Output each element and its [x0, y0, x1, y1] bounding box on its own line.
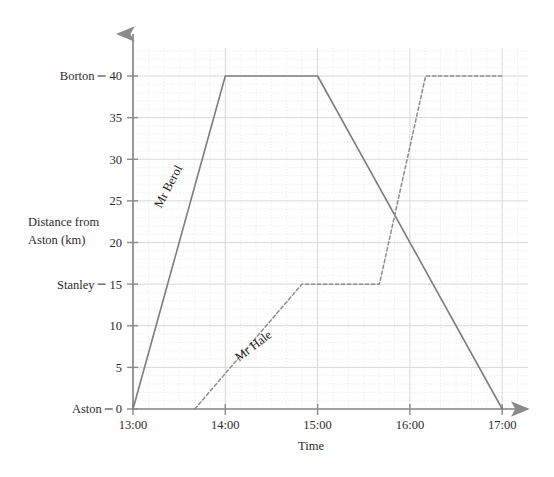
x-tick-label-1500: 15:00	[303, 418, 331, 432]
x-tick-label-1300: 13:00	[119, 418, 147, 432]
y-tick-label-25: 25	[110, 194, 123, 208]
y-place-label-borton: Borton	[60, 69, 95, 83]
distance-time-graph: 0Aston51015Stanley2025303540Borton 13:00…	[0, 0, 554, 477]
y-axis-title: Distance from Aston (km)	[28, 215, 99, 247]
y-tick-label-0: 0	[116, 402, 122, 416]
y-tick-label-40: 40	[110, 69, 123, 83]
y-tick-label-35: 35	[110, 111, 123, 125]
y-tick-label-15: 15	[110, 278, 123, 292]
y-tick-label-10: 10	[110, 319, 123, 333]
axis-lines	[133, 34, 528, 409]
y-tick-label-30: 30	[110, 153, 123, 167]
x-tick-label-1600: 16:00	[396, 418, 424, 432]
grid-minor	[133, 48, 528, 409]
y-tick-label-5: 5	[116, 361, 122, 375]
y-axis-title-line2: Aston (km)	[28, 233, 85, 247]
x-axis-title: Time	[298, 439, 324, 453]
x-tick-label-1700: 17:00	[488, 418, 516, 432]
x-tick-label-1400: 14:00	[211, 418, 239, 432]
series-label-mr-hale: Mr Hale	[232, 327, 274, 364]
y-place-label-stanley: Stanley	[57, 278, 95, 292]
series-label-mr-berol: Mr Berol	[151, 162, 185, 210]
y-tick-label-20: 20	[110, 236, 123, 250]
y-place-label-aston: Aston	[72, 402, 103, 416]
grid-major	[133, 48, 528, 409]
series-labels: Mr BerolMr Hale	[151, 162, 274, 364]
y-axis-title-line1: Distance from	[28, 215, 99, 229]
chart-canvas: 0Aston51015Stanley2025303540Borton 13:00…	[0, 0, 554, 477]
